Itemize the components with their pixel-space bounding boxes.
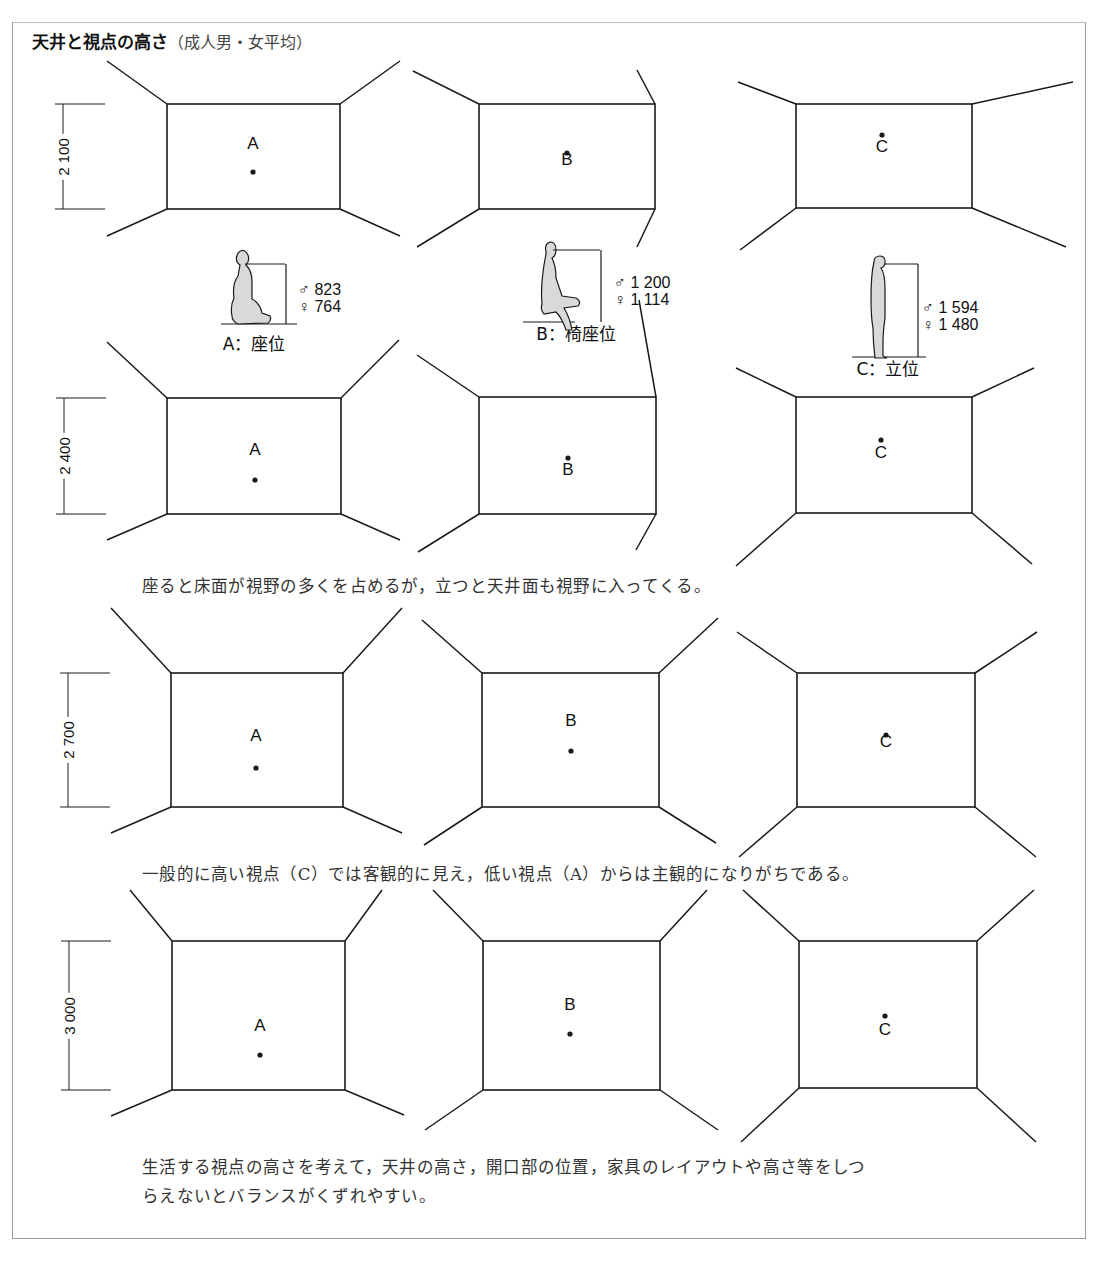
caption-text: 生活する視点の高さを考えて，天井の高さ，開口部の位置，家具のレイアウトや高さ等を… bbox=[142, 1154, 866, 1178]
chair-seated-figure-icon bbox=[523, 242, 601, 330]
caption-text: 一般的に高い視点（C）では客観的に見え，低い視点（A）からは主観的になりがちであ… bbox=[142, 861, 859, 885]
posture-figures bbox=[0, 0, 1101, 1262]
standing-figure-icon bbox=[852, 256, 926, 358]
seated-floor-figure-icon bbox=[221, 250, 297, 324]
caption-text: らえないとバランスがくずれやすい。 bbox=[142, 1183, 436, 1207]
caption-text: 座ると床面が視野の多くを占めるが，立つと天井面も視野に入ってくる。 bbox=[142, 573, 711, 597]
